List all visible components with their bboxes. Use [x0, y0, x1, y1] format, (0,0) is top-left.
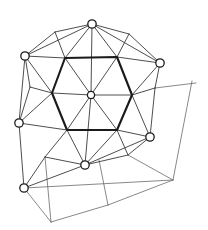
n-top: top node	[88, 20, 96, 28]
cell-edge-0	[55, 32, 65, 58]
radial-edge-11	[19, 123, 67, 130]
outer-extension-edge-2	[128, 155, 173, 180]
outer-extension-edge-3	[24, 180, 173, 188]
radial-edge-20	[85, 137, 150, 165]
radial-edge-15	[150, 88, 155, 137]
outer-extension-edge-5	[24, 188, 51, 222]
radial-edge-19	[24, 165, 85, 188]
cell-edge-13	[24, 157, 45, 188]
spoke-edge-4	[67, 95, 91, 130]
radial-edge-16	[67, 130, 85, 165]
radial-edge-8	[132, 63, 160, 95]
radial-edge-13	[132, 95, 150, 137]
spoke-edge-3	[91, 95, 117, 130]
radial-edge-3	[25, 56, 65, 58]
lattice-canvas: top nodeupper left nodeupper right nodec…	[0, 0, 208, 230]
cell-edge-14	[45, 157, 85, 165]
cell-edge-1	[117, 34, 129, 57]
cell-edge-9	[92, 24, 129, 34]
lattice-figure: top nodeupper left nodeupper right nodec…	[0, 0, 208, 230]
radial-edge-12	[19, 123, 24, 188]
radial-edge-14	[117, 130, 150, 137]
n-center: center node	[87, 91, 94, 98]
n-upper-right: upper right node	[156, 59, 164, 67]
radial-edge-17	[85, 130, 117, 165]
radial-edge-2	[91, 24, 92, 95]
outer-extension-edge-7	[108, 180, 173, 205]
radial-edge-6	[117, 57, 160, 63]
n-lower-right: lower right node	[146, 133, 154, 141]
radial-edge-1	[92, 24, 117, 57]
spoke-edge-5	[52, 93, 91, 95]
outer-extension-edge-8	[51, 205, 108, 222]
n-bottom: bottom node	[81, 161, 89, 169]
outer-extension-edge-1	[173, 81, 192, 180]
n-left: left node	[15, 119, 23, 127]
cell-edge-16	[85, 155, 128, 165]
outer-extension-edge-4	[45, 157, 51, 222]
cell-edge-8	[129, 34, 160, 63]
n-bottom-left: bottom left node	[20, 184, 28, 192]
outer-extension-edge-0	[155, 83, 196, 88]
n-upper-left: upper left node	[21, 52, 29, 60]
spoke-edge-1	[91, 57, 117, 95]
spoke-edge-0	[65, 58, 91, 95]
radial-edge-4	[25, 24, 92, 56]
cell-edge-5	[117, 130, 128, 155]
outer-extension-edge-6	[99, 160, 108, 205]
cell-edge-4	[45, 130, 67, 157]
radial-edge-5	[25, 56, 52, 93]
